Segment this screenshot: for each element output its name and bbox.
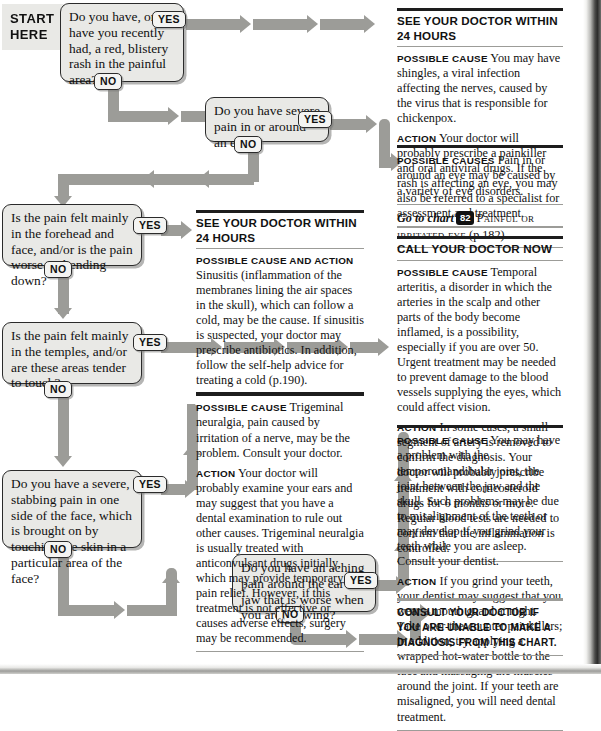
panel-cause-eye: Possible causes Pain in or around an eye… bbox=[397, 153, 563, 198]
yes-label-q1: YES bbox=[158, 13, 180, 25]
no-label-q1: NO bbox=[100, 75, 116, 87]
question-box-forehead[interactable]: Is the pain felt mainly in the forehead … bbox=[2, 204, 142, 266]
arrowhead-q1-yes-2 bbox=[307, 15, 318, 33]
lead-possible-cause-shingles: Possible cause bbox=[397, 53, 488, 64]
panel-title-sinusitis-line1: SEE YOUR DOCTOR WITHIN bbox=[196, 216, 364, 230]
connector-q5-no-right-b bbox=[127, 605, 172, 616]
connector-q1-no-right bbox=[108, 111, 170, 122]
panel-rule-bottom-trigeminal bbox=[196, 651, 364, 652]
lead-possible-cause-trigeminal: Possible cause bbox=[196, 402, 287, 413]
panel-trigeminal-neuralgia: Possible cause Trigeminal neuralgia, pai… bbox=[196, 392, 364, 652]
panel-rule-sinusitis bbox=[196, 210, 364, 213]
connector-q2-no-left2 bbox=[58, 174, 134, 185]
yes-label-q5: YES bbox=[139, 478, 161, 490]
panel-cause-temporal: Possible cause Temporal arteritis, a dis… bbox=[397, 265, 563, 416]
arrowhead-q5-no-2 bbox=[162, 572, 180, 583]
panel-rule-thin-eye bbox=[397, 204, 563, 205]
panel-rule-thin-temporal bbox=[397, 260, 563, 261]
panel-title-temporal: CALL YOUR DOCTOR NOW bbox=[397, 242, 563, 256]
no-label-q2: NO bbox=[240, 138, 256, 150]
yes-tag-q3[interactable]: YES bbox=[133, 217, 167, 234]
connector-q1-yes-c bbox=[320, 19, 366, 30]
connector-q1-yes bbox=[186, 19, 242, 30]
arrowhead-q1-no-1 bbox=[168, 107, 179, 125]
panel-tmj: Possible cause You may have a problem wi… bbox=[397, 425, 563, 731]
no-tag-q5[interactable]: NO bbox=[44, 541, 72, 558]
panel-rule-consult bbox=[397, 598, 563, 601]
yes-tag-q4[interactable]: YES bbox=[133, 334, 167, 351]
no-tag-q3[interactable]: NO bbox=[44, 261, 72, 278]
panel-sinusitis: SEE YOUR DOCTOR WITHIN 24 HOURS Possible… bbox=[196, 210, 364, 396]
arrowhead-q5-no-1 bbox=[114, 601, 125, 619]
lead-action-shingles: Action bbox=[397, 133, 436, 144]
connector-q5-yes-cap bbox=[187, 404, 195, 415]
arrowhead-q1-yes-1 bbox=[240, 15, 251, 33]
panel-cause-sinusitis: Possible cause and action Sinusitis (inf… bbox=[196, 253, 364, 389]
arrowhead-q1-yes-3 bbox=[364, 15, 375, 33]
arrowhead-q2-no-2 bbox=[143, 170, 154, 188]
lead-possible-cause-tmj: Possible cause bbox=[397, 435, 488, 446]
panel-rule-tmj bbox=[397, 425, 563, 428]
connector-q4-no-down bbox=[58, 388, 69, 460]
lead-possible-cause-sinusitis: Possible cause and action bbox=[196, 255, 354, 266]
panel-title-sinusitis-line2: 24 HOURS bbox=[196, 231, 364, 245]
lead-action-trigeminal: Action bbox=[196, 468, 235, 479]
panel-action-trigeminal: Action Your doctor will probably examine… bbox=[196, 466, 364, 647]
arrowhead-q2-no-1 bbox=[198, 170, 209, 188]
arrowhead-q2-yes-1 bbox=[366, 115, 377, 133]
panel-consult-doctor: Consult your doctor if you are unable to… bbox=[397, 598, 563, 656]
yes-tag-q1[interactable]: YES bbox=[152, 11, 186, 28]
panel-rule-thin-sinusitis bbox=[196, 248, 364, 249]
text-possible-cause-sinusitis: Sinusitis (inflammation of the membranes… bbox=[196, 268, 364, 387]
arrowhead-q4-no bbox=[54, 456, 72, 467]
text-possible-cause-tmj: You may have a problem with the temporom… bbox=[397, 433, 560, 568]
yes-label-q2: YES bbox=[304, 113, 326, 125]
lead-action-tmj: Action bbox=[397, 576, 436, 587]
text-action-trigeminal: Your doctor will probably examine your e… bbox=[196, 466, 364, 646]
connector-q6-no-right-b bbox=[359, 634, 399, 645]
connector-q5-no-right bbox=[58, 605, 116, 616]
no-label-q3: NO bbox=[50, 263, 66, 275]
panel-rule-temporal bbox=[397, 236, 563, 239]
question-box-temples[interactable]: Is the pain felt mainly in the temples, … bbox=[2, 322, 142, 384]
text-possible-cause-temporal: Temporal arteritis, a disorder in which … bbox=[397, 265, 561, 415]
lead-possible-cause-temporal: Possible cause bbox=[397, 267, 488, 278]
panel-rule-thin-shingles bbox=[397, 46, 563, 47]
question-text-stabbing-pain: Do you have a severe, stabbing pain in o… bbox=[11, 476, 132, 586]
page-edge-right bbox=[583, 0, 601, 674]
yes-tag-q2[interactable]: YES bbox=[298, 111, 332, 128]
no-tag-q4[interactable]: NO bbox=[44, 381, 72, 398]
page-edge-bottom bbox=[0, 664, 601, 674]
connector-q1-yes-b bbox=[253, 19, 309, 30]
arrowhead-q3-no bbox=[54, 308, 72, 319]
lead-possible-causes-eye: Possible causes bbox=[397, 155, 495, 166]
question-box-stabbing-pain[interactable]: Do you have a severe, stabbing pain in o… bbox=[2, 470, 142, 548]
goto-chart-prefix: Go to chart bbox=[397, 211, 454, 225]
panel-title-sinusitis: SEE YOUR DOCTOR WITHIN 24 HOURS bbox=[196, 216, 364, 244]
question-text-forehead: Is the pain felt mainly in the forehead … bbox=[11, 210, 133, 288]
connector-q1-no-right-b bbox=[181, 111, 207, 122]
yes-label-q3: YES bbox=[139, 219, 161, 231]
panel-rule-eye bbox=[397, 145, 563, 148]
panel-rule-shingles bbox=[397, 8, 563, 11]
no-tag-q2[interactable]: NO bbox=[234, 136, 262, 153]
panel-eye-disorders: Possible causes Pain in or around an eye… bbox=[397, 145, 563, 248]
chart-number-badge: 82 bbox=[456, 211, 475, 225]
panel-cause-shingles: Possible cause You may have shingles, a … bbox=[397, 51, 563, 126]
panel-cause-trigeminal: Possible cause Trigeminal neuralgia, pai… bbox=[196, 400, 364, 460]
panel-rule-trigeminal bbox=[196, 392, 364, 395]
consult-doctor-text: Consult your doctor if you are unable to… bbox=[397, 605, 563, 650]
no-tag-q1[interactable]: NO bbox=[94, 73, 122, 90]
yes-tag-q5[interactable]: YES bbox=[133, 476, 167, 493]
no-label-q4: NO bbox=[50, 383, 66, 395]
arrowhead-q4-yes-4 bbox=[378, 338, 389, 356]
no-label-q5: NO bbox=[50, 543, 66, 555]
panel-cause-tmj: Possible cause You may have a problem wi… bbox=[397, 433, 563, 569]
connector-q2-yes bbox=[330, 119, 368, 130]
panel-title-shingles: SEE YOUR DOCTOR WITHIN 24 HOURS bbox=[397, 14, 563, 42]
panel-rule-bottom-consult bbox=[397, 655, 563, 656]
yes-label-q4: YES bbox=[139, 336, 161, 348]
arrowhead-q3-yes bbox=[181, 221, 192, 239]
